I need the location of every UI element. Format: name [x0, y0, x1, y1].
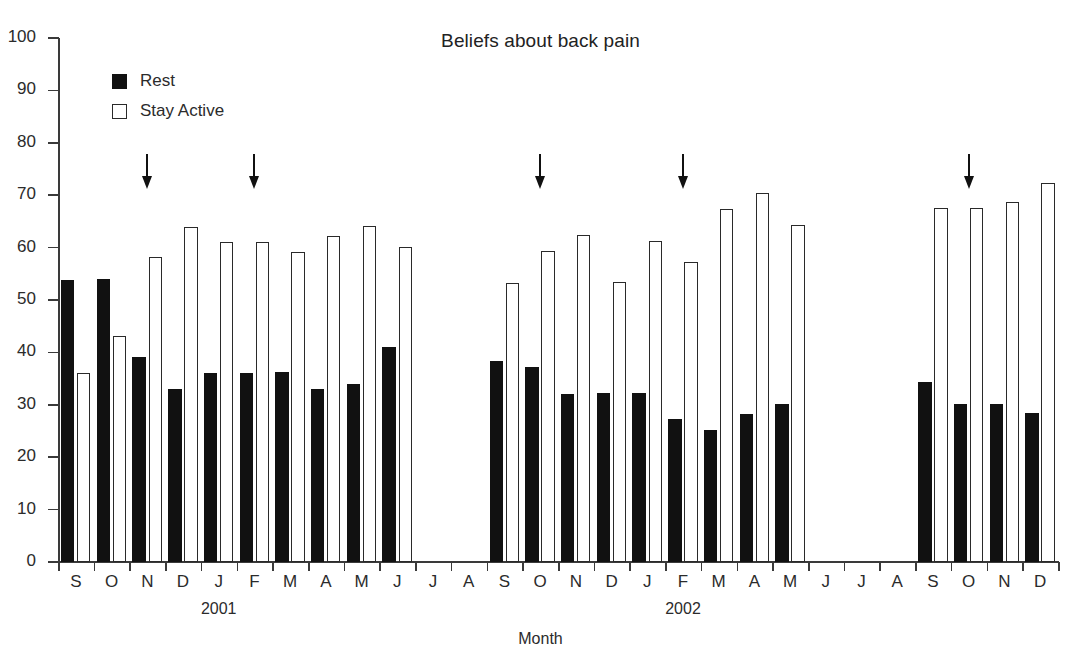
bar-rest [668, 419, 681, 562]
intervention-arrow-1-icon [142, 154, 152, 190]
bar-rest [990, 404, 1003, 562]
intervention-arrow-3-icon [535, 154, 545, 190]
intervention-arrow-5-icon [964, 154, 974, 190]
bar-rest [704, 430, 717, 562]
bar-rest [311, 389, 324, 562]
bar-stay-active [220, 242, 233, 562]
bar-rest [525, 367, 538, 562]
bar-rest [490, 361, 503, 562]
bar-stay-active [934, 208, 947, 562]
bar-rest [240, 373, 253, 562]
bar-rest [347, 384, 360, 562]
bar-rest [132, 357, 145, 562]
bar-stay-active [184, 227, 197, 562]
bar-rest [597, 393, 610, 562]
bar-stay-active [291, 252, 304, 562]
arrow-head [535, 176, 545, 189]
arrow-head [249, 176, 259, 189]
bar-stay-active [791, 225, 804, 562]
bar-rest [1025, 413, 1038, 562]
bar-stay-active [684, 262, 697, 562]
x-axis-group-label: 2002 [633, 600, 733, 618]
bar-stay-active [363, 226, 376, 562]
bar-stay-active [577, 235, 590, 562]
arrow-shaft [682, 154, 684, 178]
bar-rest [775, 404, 788, 562]
bar-stay-active [399, 247, 412, 562]
intervention-arrow-4-icon [678, 154, 688, 190]
bar-rest [632, 393, 645, 562]
bar-stay-active [149, 257, 162, 562]
legend-item-rest: Rest [112, 66, 224, 96]
arrow-head [964, 176, 974, 189]
x-axis-title: Month [0, 630, 1081, 648]
bar-rest [61, 280, 74, 562]
arrow-head [678, 176, 688, 189]
bar-stay-active [613, 282, 626, 562]
bar-stay-active [649, 241, 662, 562]
chart-legend: Rest Stay Active [112, 66, 224, 126]
bar-stay-active [970, 208, 983, 562]
chart-root: Beliefs about back pain 0102030405060708… [0, 0, 1081, 662]
arrow-shaft [539, 154, 541, 178]
legend-swatch-rest-icon [112, 74, 127, 89]
bar-stay-active [327, 236, 340, 562]
bar-rest [382, 347, 395, 562]
bar-stay-active [1041, 183, 1054, 562]
legend-label-stay-active: Stay Active [140, 101, 224, 121]
bar-stay-active [506, 283, 519, 562]
bar-stay-active [720, 209, 733, 562]
bar-rest [97, 279, 110, 562]
x-axis-group-label: 2001 [169, 600, 269, 618]
bar-rest [740, 414, 753, 562]
arrow-shaft [968, 154, 970, 178]
bar-stay-active [77, 373, 90, 562]
legend-item-stay-active: Stay Active [112, 96, 224, 126]
bar-rest [918, 382, 931, 562]
bar-rest [954, 404, 967, 562]
bar-stay-active [256, 242, 269, 562]
bar-rest [275, 372, 288, 562]
bar-stay-active [113, 336, 126, 562]
bar-stay-active [541, 251, 554, 562]
bar-rest [561, 394, 574, 562]
legend-swatch-stay-active-icon [112, 104, 127, 119]
arrow-shaft [146, 154, 148, 178]
bar-rest [204, 373, 217, 562]
intervention-arrow-2-icon [249, 154, 259, 190]
bar-stay-active [1006, 202, 1019, 562]
arrow-shaft [253, 154, 255, 178]
bar-rest [168, 389, 181, 562]
arrow-head [142, 176, 152, 189]
bar-stay-active [756, 193, 769, 562]
legend-label-rest: Rest [140, 71, 175, 91]
